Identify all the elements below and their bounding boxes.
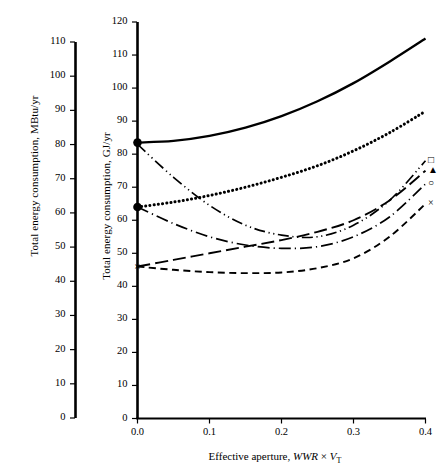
circle-marker: ○: [428, 178, 434, 188]
curve-dash-dot: [138, 184, 426, 249]
secondary-y-tick: 30: [32, 308, 66, 319]
primary-y-tick: 50: [94, 246, 128, 257]
filled-circle-mid: [133, 203, 142, 212]
curve-dotted: [138, 111, 426, 207]
secondary-y-axis: [70, 42, 76, 418]
chart-canvas: ×: [0, 0, 447, 474]
secondary-y-tick: 80: [32, 138, 66, 149]
cross-low: ×: [134, 260, 140, 272]
secondary-y-tick: 110: [32, 35, 66, 46]
x-tick: 0.2: [262, 426, 302, 437]
primary-y-tick: 90: [94, 114, 128, 125]
secondary-y-tick: 40: [32, 274, 66, 285]
x-tick: 0.3: [334, 426, 374, 437]
primary-y-tick: 70: [94, 180, 128, 191]
primary-y-tick: 10: [94, 378, 128, 389]
primary-y-tick: 110: [94, 48, 128, 59]
primary-y-tick: 100: [94, 81, 128, 92]
cross-marker: ×: [428, 198, 434, 208]
primary-y-tick: 20: [94, 345, 128, 356]
secondary-y-tick: 100: [32, 69, 66, 80]
secondary-y-tick: 50: [32, 240, 66, 251]
curve-dashed: [138, 204, 426, 273]
primary-y-tick: 0: [94, 412, 128, 423]
primary-y-tick: 30: [94, 312, 128, 323]
secondary-y-tick: 0: [32, 411, 66, 422]
chart-figure: Total energy consumption, MBtu/yr Total …: [0, 0, 447, 474]
secondary-y-tick: 60: [32, 206, 66, 217]
primary-y-tick: 60: [94, 213, 128, 224]
filled-triangle-marker: ▲: [428, 165, 438, 175]
curve-dash-dot-dot: [138, 144, 426, 237]
secondary-y-tick: 20: [32, 343, 66, 354]
secondary-y-tick: 10: [32, 377, 66, 388]
data-curves: [138, 39, 426, 274]
primary-y-tick: 120: [94, 15, 128, 26]
filled-circle-top: [133, 138, 142, 147]
x-tick: 0.4: [406, 426, 446, 437]
primary-y-tick: 40: [94, 279, 128, 290]
secondary-y-tick: 90: [32, 103, 66, 114]
curve-solid: [138, 39, 426, 143]
x-tick: 0.1: [190, 426, 230, 437]
x-tick: 0.0: [118, 426, 158, 437]
primary-y-tick: 80: [94, 147, 128, 158]
curve-long-dash: [138, 171, 426, 267]
secondary-y-tick: 70: [32, 172, 66, 183]
